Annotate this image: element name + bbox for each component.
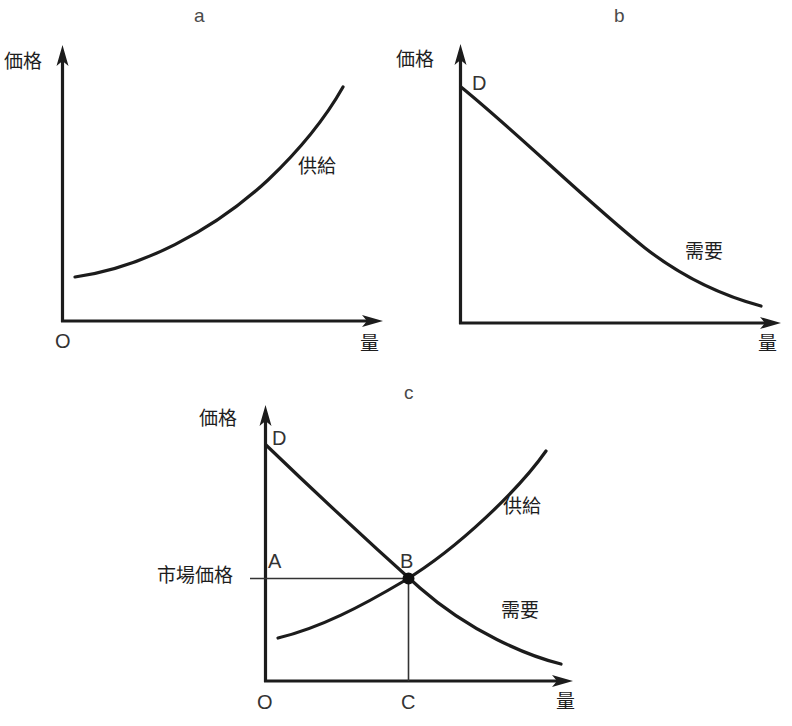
panel-c-title: c [404,383,414,402]
panel-c-point-d-label: D [272,428,286,448]
figure-root: a 価格 供給 O 量 b 価格 D 需要 量 c 価格 D A [0,0,792,726]
panel-c-supply-label: 供給 [503,497,541,516]
panel-c-demand-curve [266,445,561,664]
panel-c-graphics [0,0,792,726]
panel-c-origin-label: O [257,692,273,712]
panel-c-point-b-label: B [400,551,413,571]
panel-c-demand-label: 需要 [501,601,539,620]
panel-c-point-c-label: C [401,692,415,712]
panel-c-y-axis-label: 価格 [199,409,237,428]
panel-c-market-price-label: 市場価格 [157,566,233,585]
panel-c-x-axis-label: 量 [556,692,575,711]
panel-c-point-a-label: A [268,551,281,571]
panel-c-equilibrium-point [403,573,415,585]
